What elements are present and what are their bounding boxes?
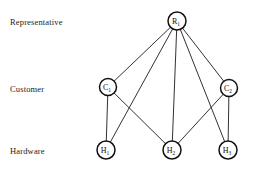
graph-edge: [106, 96, 107, 142]
graph-edge: [172, 30, 176, 141]
node-label-subscript: 1: [108, 87, 111, 93]
node-label-subscript: 1: [107, 150, 110, 156]
graph-node-c1[interactable]: C1: [100, 79, 117, 96]
graph-edge: [114, 27, 170, 81]
edge-layer: [106, 27, 229, 143]
node-label-subscript: 1: [177, 21, 180, 27]
node-label-subscript: 2: [229, 88, 232, 94]
graph-node-c2[interactable]: C2: [221, 80, 238, 97]
graph-edge: [114, 93, 166, 144]
graph-node-h3[interactable]: H3: [219, 141, 237, 159]
graph-node-h1[interactable]: H1: [97, 141, 115, 159]
graph-node-h2[interactable]: H2: [163, 141, 181, 159]
node-label-subscript: 2: [173, 150, 176, 156]
graph-node-r1[interactable]: R1: [168, 12, 186, 30]
graph-canvas: R1C1C2H1H2H3: [0, 0, 257, 172]
node-layer: R1C1C2H1H2H3: [97, 12, 238, 159]
node-label-subscript: 3: [229, 150, 232, 156]
graph-edge: [180, 29, 224, 141]
graph-edge: [110, 29, 172, 142]
graph-edge: [183, 28, 224, 81]
graph-figure: Representative Customer Hardware R1C1C2H…: [0, 0, 257, 172]
graph-edge: [178, 94, 223, 143]
graph-edge: [228, 97, 229, 142]
